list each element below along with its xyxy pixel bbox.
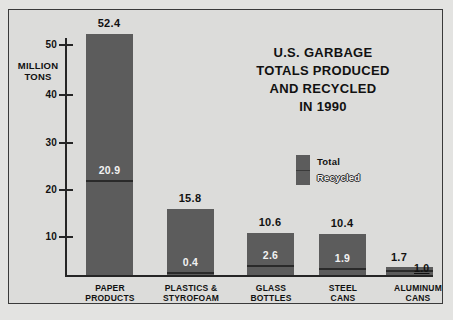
chart-title-line3: AND RECYCLED (228, 80, 418, 98)
recycled-level-line-steel (319, 268, 366, 270)
recycled-level-line-paper (86, 180, 133, 182)
bar-total-paper (86, 34, 133, 275)
y-tick-label-30: 30 (33, 137, 57, 148)
recycled-value-label-glass: 2.6 (247, 249, 294, 261)
y-axis-title-line2: TONS (14, 71, 62, 82)
x-axis-line (65, 275, 433, 277)
y-tick-label-40: 40 (33, 89, 57, 100)
category-label-glass-line2: BOTTLES (235, 293, 307, 303)
category-label-plastics-line1: PLASTICS & (152, 283, 230, 293)
legend-swatch-divider (296, 170, 310, 171)
category-label-steel-line1: STEEL (307, 283, 379, 293)
y-tick-label-50: 50 (33, 39, 57, 50)
category-label-glass-line1: GLASS (235, 283, 307, 293)
recycled-value-label-paper: 20.9 (86, 164, 133, 176)
y-tick-50 (59, 44, 73, 46)
legend-label-recycled: Recycled (317, 172, 360, 183)
y-axis-title: MILLION TONS (14, 60, 62, 82)
chart-title: U.S. GARBAGE TOTALS PRODUCED AND RECYCLE… (228, 44, 418, 116)
recycled-value-label-steel: 1.9 (319, 252, 366, 264)
legend-label-total: Total (317, 156, 340, 167)
chart-legend: Total Recycled (296, 155, 406, 189)
category-label-steel-line2: CANS (307, 293, 379, 303)
category-label-aluminum-line2: CANS (380, 293, 453, 303)
category-label-aluminum: ALUMINUM CANS (380, 283, 453, 303)
total-value-label-paper: 52.4 (77, 17, 141, 29)
chart-title-line1: U.S. GARBAGE (228, 44, 418, 62)
category-label-paper-line2: PRODUCTS (72, 293, 148, 303)
chart-figure: 50 40 30 20 10 MILLION TONS 52.4 20.9 PA… (0, 0, 453, 320)
y-tick-20 (59, 189, 73, 191)
category-label-plastics-line2: STYROFOAM (152, 293, 230, 303)
total-value-label-glass: 10.6 (238, 216, 302, 228)
category-label-plastics: PLASTICS & STYROFOAM (152, 283, 230, 303)
category-label-glass: GLASS BOTTLES (235, 283, 307, 303)
legend-swatch (296, 155, 310, 185)
category-label-aluminum-line1: ALUMINUM (380, 283, 453, 293)
y-axis-title-line1: MILLION (14, 60, 62, 71)
recycled-level-line-glass (247, 265, 294, 267)
category-label-paper: PAPER PRODUCTS (72, 283, 148, 303)
y-tick-40 (59, 94, 73, 96)
y-tick-label-10: 10 (33, 231, 57, 242)
category-label-paper-line1: PAPER (72, 283, 148, 293)
total-value-label-plastics: 15.8 (158, 192, 222, 204)
total-value-label-steel: 10.4 (310, 217, 374, 229)
plot-area: 50 40 30 20 10 MILLION TONS 52.4 20.9 PA… (0, 0, 453, 320)
category-label-steel: STEEL CANS (307, 283, 379, 303)
chart-title-line2: TOTALS PRODUCED (228, 62, 418, 80)
recycled-value-label-plastics: 0.4 (167, 256, 214, 268)
y-tick-30 (59, 142, 73, 144)
chart-title-line4: IN 1990 (228, 98, 418, 116)
y-axis-line (65, 38, 67, 277)
y-tick-label-20: 20 (33, 184, 57, 195)
recycled-level-line-plastics (167, 272, 214, 274)
recycled-value-label-aluminum: 1.0 (414, 262, 448, 274)
y-tick-10 (59, 236, 73, 238)
